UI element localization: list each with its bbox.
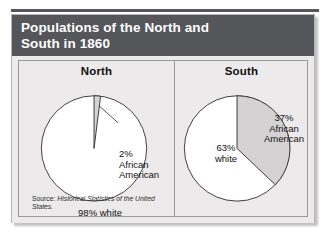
figure-root: Populations of the North and South in 18… [0, 0, 329, 237]
source-note: Source: Historical Statistics of the Uni… [32, 195, 174, 211]
north-african-american-label: 2% African American [119, 149, 159, 181]
figure-header: Populations of the North and South in 18… [12, 15, 314, 56]
panel-north: North 2% African American 98% white Sour… [19, 61, 174, 216]
pie-chart-north [19, 61, 174, 216]
figure-card: Populations of the North and South in 18… [11, 14, 315, 223]
panel-south: South 37% African American 63% white [175, 61, 308, 216]
source-label: Source: [32, 195, 57, 202]
charts-frame: North 2% African American 98% white Sour… [18, 60, 308, 217]
figure-title: Populations of the North and South in 18… [21, 20, 314, 51]
south-african-american-label: 37% African American [253, 113, 315, 145]
top-rule [11, 9, 319, 12]
charts-area: North 2% African American 98% white Sour… [12, 56, 314, 223]
south-white-label: 63% white [201, 143, 251, 164]
